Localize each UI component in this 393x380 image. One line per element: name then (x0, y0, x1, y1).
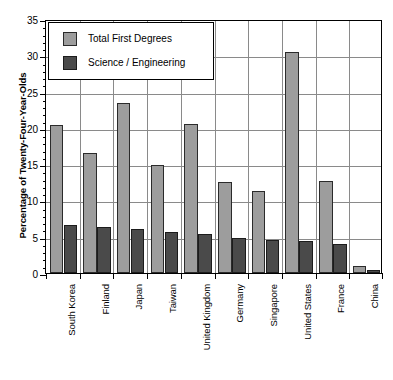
y-axis-tick-label: 30 (27, 52, 38, 62)
bar-science-engineering (165, 232, 179, 273)
y-axis-minor-tick (43, 181, 47, 182)
bar-total-first-degrees (353, 266, 367, 273)
legend-item-science-engineering: Science / Engineering (63, 56, 185, 70)
x-axis-tick (382, 273, 383, 279)
x-axis-label: France (335, 284, 346, 313)
y-axis-minor-tick (43, 173, 47, 174)
y-axis-minor-tick (43, 123, 47, 124)
y-axis-tick (40, 202, 46, 203)
legend-label-science-engineering: Science / Engineering (88, 58, 185, 68)
y-axis-tick (40, 166, 46, 167)
y-gridline (46, 94, 381, 95)
x-axis-tick (282, 273, 283, 279)
y-axis-minor-tick (43, 159, 47, 160)
bar-science-engineering (232, 238, 246, 273)
x-gridline (349, 21, 350, 273)
bar-total-first-degrees (50, 125, 64, 273)
bar-total-first-degrees (319, 181, 333, 273)
y-gridline (46, 130, 381, 131)
x-axis-label: United States (302, 284, 313, 340)
y-axis-tick (40, 57, 46, 58)
y-axis-tick-label: 15 (27, 161, 38, 171)
y-axis-minor-tick (43, 79, 47, 80)
chart-legend: Total First Degrees Science / Engineerin… (48, 22, 214, 80)
y-axis-tick (40, 21, 46, 22)
bar-total-first-degrees (252, 191, 266, 273)
x-gridline (248, 21, 249, 273)
x-axis-tick (215, 273, 216, 279)
y-axis-tick-label: 5 (32, 234, 38, 244)
x-axis-label: Germany (234, 284, 245, 322)
x-axis-label: Taiwan (167, 284, 178, 313)
x-gridline (316, 21, 317, 273)
bar-total-first-degrees (83, 153, 97, 273)
y-axis-tick-label: 25 (27, 89, 38, 99)
x-axis-label: Finland (100, 284, 111, 314)
y-axis-minor-tick (43, 65, 47, 66)
legend-label-total-first-degrees: Total First Degrees (88, 34, 172, 44)
y-axis-minor-tick (43, 195, 47, 196)
y-axis-minor-tick (43, 260, 47, 261)
bar-science-engineering (64, 225, 78, 273)
y-axis-minor-tick (43, 101, 47, 102)
x-axis-tick (181, 273, 182, 279)
y-axis-minor-tick (43, 115, 47, 116)
y-axis-minor-tick (43, 246, 47, 247)
bar-science-engineering (367, 270, 381, 273)
x-gridline (215, 21, 216, 273)
y-axis-minor-tick (43, 36, 47, 37)
bar-science-engineering (266, 240, 280, 273)
x-axis-label: Singapore (268, 284, 279, 326)
x-axis-tick (46, 273, 47, 279)
x-axis-tick (147, 273, 148, 279)
y-axis-minor-tick (43, 72, 47, 73)
y-axis-title: Percentage of Twenty-Four-Year-Olds (17, 46, 28, 266)
x-axis-tick (113, 273, 114, 279)
y-axis-minor-tick (43, 137, 47, 138)
x-axis-tick (80, 273, 81, 279)
y-axis-minor-tick (43, 50, 47, 51)
legend-swatch-icon-total-first-degrees (63, 32, 77, 46)
legend-item-total-first-degrees: Total First Degrees (63, 32, 172, 46)
y-axis-tick-label: 0 (32, 270, 38, 280)
y-axis-minor-tick (43, 268, 47, 269)
y-axis-minor-tick (43, 28, 47, 29)
y-axis-minor-tick (43, 108, 47, 109)
y-axis-tick (40, 239, 46, 240)
x-axis-label: South Korea (66, 284, 77, 336)
y-axis-minor-tick (43, 86, 47, 87)
x-axis-label: Japan (133, 284, 144, 309)
x-axis-tick (316, 273, 317, 279)
y-axis-tick-label: 35 (27, 16, 38, 26)
y-axis-tick (40, 130, 46, 131)
y-axis-minor-tick (43, 231, 47, 232)
y-axis-minor-tick (43, 224, 47, 225)
x-gridline (282, 21, 283, 273)
bar-science-engineering (97, 227, 111, 273)
y-axis-tick-label: 20 (27, 125, 38, 135)
bar-chart: Percentage of Twenty-Four-Year-Olds 0510… (0, 0, 393, 380)
bar-total-first-degrees (285, 52, 299, 273)
y-axis-minor-tick (43, 253, 47, 254)
y-axis-minor-tick (43, 217, 47, 218)
bar-science-engineering (333, 244, 347, 273)
x-axis-label: United Kingdom (201, 284, 212, 350)
bar-total-first-degrees (218, 182, 232, 273)
y-axis-minor-tick (43, 188, 47, 189)
y-axis-tick-label: 10 (27, 197, 38, 207)
x-axis-label: China (369, 284, 380, 308)
x-axis-tick (248, 273, 249, 279)
bar-total-first-degrees (117, 103, 131, 273)
y-axis-minor-tick (43, 210, 47, 211)
bar-total-first-degrees (184, 124, 198, 273)
x-axis-tick (349, 273, 350, 279)
legend-swatch-icon-science-engineering (63, 56, 77, 70)
y-axis-minor-tick (43, 144, 47, 145)
bar-science-engineering (299, 241, 313, 273)
bar-science-engineering (198, 234, 212, 273)
y-axis-minor-tick (43, 152, 47, 153)
y-axis-tick (40, 94, 46, 95)
bar-science-engineering (131, 229, 145, 273)
y-axis-minor-tick (43, 43, 47, 44)
bar-total-first-degrees (151, 165, 165, 273)
